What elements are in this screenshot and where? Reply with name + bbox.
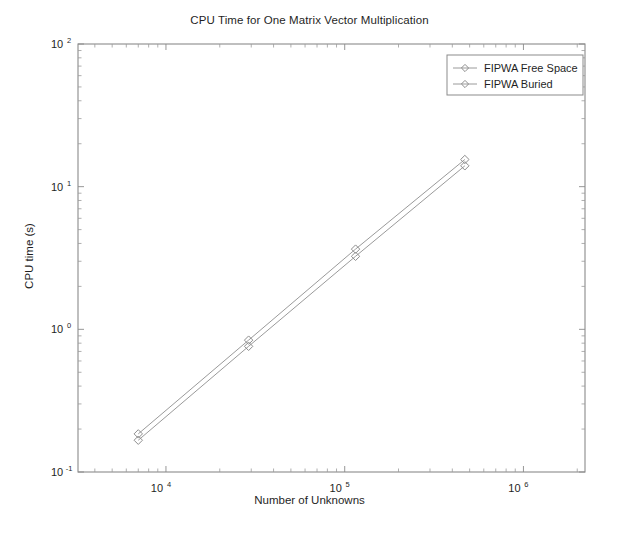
svg-text:-1: -1 <box>66 464 73 473</box>
svg-text:6: 6 <box>524 480 528 489</box>
y-tick-label: 101 <box>51 179 71 193</box>
legend-entry-label: FIPWA Free Space <box>484 62 578 74</box>
svg-text:10: 10 <box>151 482 163 494</box>
svg-text:4: 4 <box>167 480 171 489</box>
svg-text:2: 2 <box>67 36 71 45</box>
axes-box <box>78 44 585 472</box>
plot-area: 10410510610-1100101102 FIPWA Free SpaceF… <box>0 0 619 535</box>
y-tick-label: 100 <box>51 321 71 335</box>
legend-entry-label: FIPWA Buried <box>484 78 553 90</box>
svg-text:0: 0 <box>67 321 71 330</box>
data-series <box>134 155 469 438</box>
y-tick-label: 10-1 <box>51 464 72 478</box>
x-tick-label: 105 <box>330 480 350 494</box>
svg-text:10: 10 <box>51 181 63 193</box>
svg-text:10: 10 <box>51 466 63 478</box>
legend[interactable]: FIPWA Free SpaceFIPWA Buried <box>447 55 583 95</box>
axis-ticks <box>78 44 585 472</box>
y-tick-label: 102 <box>51 36 71 50</box>
tick-label-group: 10410510610-1100101102 <box>51 36 529 494</box>
svg-text:1: 1 <box>67 179 71 188</box>
x-tick-label: 106 <box>508 480 528 494</box>
x-tick-label: 104 <box>151 480 171 494</box>
data-series-group <box>134 155 469 444</box>
data-series <box>134 162 469 445</box>
axes-frame <box>78 44 585 472</box>
svg-text:10: 10 <box>51 323 63 335</box>
figure-canvas: CPU Time for One Matrix Vector Multiplic… <box>0 0 619 535</box>
svg-text:10: 10 <box>51 38 63 50</box>
svg-text:10: 10 <box>330 482 342 494</box>
series-line <box>138 166 465 440</box>
svg-text:10: 10 <box>508 482 520 494</box>
svg-text:5: 5 <box>346 480 350 489</box>
series-line <box>138 160 465 434</box>
